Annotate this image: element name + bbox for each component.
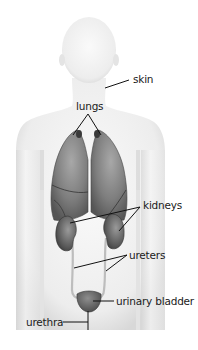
urinary-bladder-label: urinary bladder — [116, 295, 194, 307]
urinary-system-diagram: skin lungs kidneys ureters urinary bladd… — [0, 0, 198, 350]
kidneys-label: kidneys — [143, 199, 182, 211]
skin-label: skin — [133, 73, 153, 85]
lungs-label: lungs — [76, 100, 103, 112]
body-silhouette — [16, 17, 165, 330]
ureters-label: ureters — [129, 249, 165, 261]
urethra-label: urethra — [26, 316, 63, 328]
